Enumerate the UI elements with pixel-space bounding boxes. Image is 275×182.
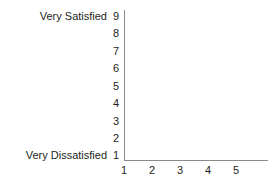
y-tick-label-5: 5 (79, 81, 119, 92)
x-tick-label-5: 5 (226, 165, 246, 176)
y-tick-label-7: 7 (79, 46, 119, 57)
empty-rating-scale-chart: Very Satisfied Very Dissatisfied 9 8 7 6… (0, 0, 275, 182)
y-tick-label-6: 6 (79, 63, 119, 74)
x-axis-line (124, 160, 268, 161)
y-axis-line (124, 10, 125, 161)
x-tick-label-2: 2 (142, 165, 162, 176)
y-tick-label-3: 3 (79, 116, 119, 127)
x-tick-label-1: 1 (114, 165, 134, 176)
y-tick-label-1: 1 (79, 150, 119, 161)
y-tick-label-4: 4 (79, 98, 119, 109)
x-tick-label-4: 4 (198, 165, 218, 176)
y-tick-label-2: 2 (79, 133, 119, 144)
y-tick-label-8: 8 (79, 28, 119, 39)
y-tick-label-9: 9 (79, 11, 119, 22)
x-tick-label-3: 3 (170, 165, 190, 176)
